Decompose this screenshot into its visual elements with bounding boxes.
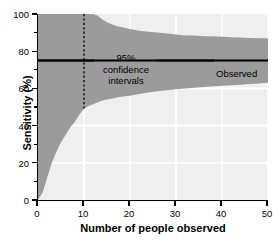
x-tick-40 [220, 201, 221, 206]
x-tick-label-0: 0 [34, 208, 39, 219]
x-tick-label-50: 50 [262, 208, 273, 219]
x-tick-label-30: 30 [170, 208, 181, 219]
plot-canvas [38, 14, 268, 200]
y-minor-tick-30 [34, 144, 37, 145]
y-axis-line [37, 14, 38, 201]
x-tick-20 [128, 201, 129, 206]
y-tick-100 [32, 13, 37, 14]
ci-annotation: 95% confidence intervals [95, 52, 157, 87]
x-axis-ticks: 01020304050 [37, 201, 268, 221]
x-tick-label-40: 40 [216, 208, 227, 219]
x-tick-30 [174, 201, 175, 206]
observed-annotation: Observed [216, 68, 257, 79]
ci-annotation-line3: intervals [95, 75, 157, 87]
ci-annotation-line1: 95% [95, 52, 157, 64]
y-minor-tick-70 [34, 69, 37, 70]
x-tick-0 [36, 201, 37, 206]
y-tick-label-100: 100 [13, 9, 29, 20]
x-tick-50 [266, 201, 267, 206]
y-minor-tick-50 [34, 106, 37, 107]
x-tick-label-10: 10 [78, 208, 89, 219]
confidence-band [38, 14, 268, 200]
x-tick-label-20: 20 [124, 208, 135, 219]
plot-area: 95% confidence intervals Observed [38, 14, 268, 200]
y-minor-tick-10 [34, 181, 37, 182]
chart-figure: 95% confidence intervals Observed 020406… [0, 0, 280, 244]
y-minor-tick-90 [34, 32, 37, 33]
x-tick-10 [82, 201, 83, 206]
x-axis-title: Number of people observed [38, 222, 268, 234]
y-tick-label-0: 0 [24, 195, 29, 206]
ci-annotation-line2: confidence [95, 64, 157, 76]
y-axis-title: Sensitivity (%) [21, 38, 33, 188]
